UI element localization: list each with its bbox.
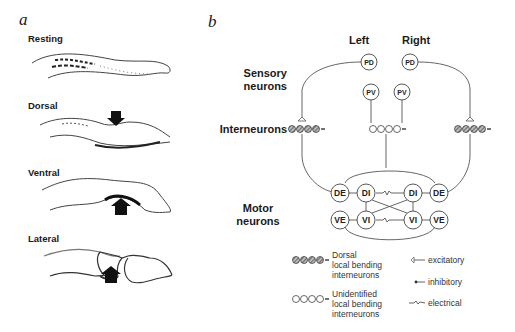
dorsal-interneurons-left (289, 126, 326, 133)
legend-inhibitory-label: inhibitory (428, 277, 462, 287)
node-de-left-label: DE (334, 188, 346, 198)
node-pv-right-label: PV (397, 89, 407, 96)
node-di-right-label: DI (409, 188, 418, 198)
de-top-arc (345, 171, 435, 183)
synapse-terminal-left (298, 117, 306, 121)
interneurons-right-to-de-right (447, 134, 470, 192)
pd-left-to-interneurons (302, 62, 361, 117)
pd-right-to-interneurons (418, 62, 470, 117)
legend-electrical-symbol (409, 301, 425, 304)
legend-excitatory-arrowhead (411, 257, 414, 263)
legend-unid-line3: interneurons (332, 309, 382, 319)
legend-dorsal-text: Dorsal local bending interneurons (332, 250, 382, 280)
ve-bottom-arc (345, 227, 435, 240)
legend-dorsal-symbol (293, 257, 330, 264)
di-di-electrical (376, 191, 404, 195)
legend-dorsal-line2: local bending (332, 260, 382, 270)
unidentified-interneurons (370, 126, 407, 133)
node-vi-right-label: VI (409, 215, 417, 225)
legend-excitatory-label: excitatory (428, 255, 464, 265)
node-ve-left-label: VE (334, 215, 346, 225)
legend-unidentified-text: Unidentified local bending interneurons (332, 289, 382, 319)
legend-unid-line2: local bending (332, 299, 382, 309)
legend-unidentified-symbol (293, 296, 330, 303)
node-vi-left-label: VI (362, 215, 370, 225)
node-ve-right-label: VE (433, 215, 445, 225)
vi-vi-electrical (376, 218, 404, 222)
dorsal-interneurons-right (455, 126, 492, 133)
synapse-terminal-right (466, 117, 474, 121)
legend-dorsal-line3: interneurons (332, 270, 382, 280)
legend-inhibitory-dot (415, 281, 418, 284)
interneurons-left-to-de-left (302, 134, 333, 192)
legend-unid-line1: Unidentified (332, 289, 382, 299)
node-pv-left-label: PV (366, 89, 376, 96)
node-pd-left-label: PD (364, 59, 374, 66)
node-de-right-label: DE (433, 188, 445, 198)
node-di-left-label: DI (362, 188, 371, 198)
legend-dorsal-line1: Dorsal (332, 250, 382, 260)
node-pd-right-label: PD (405, 59, 415, 66)
legend-electrical-label: electrical (428, 298, 462, 308)
